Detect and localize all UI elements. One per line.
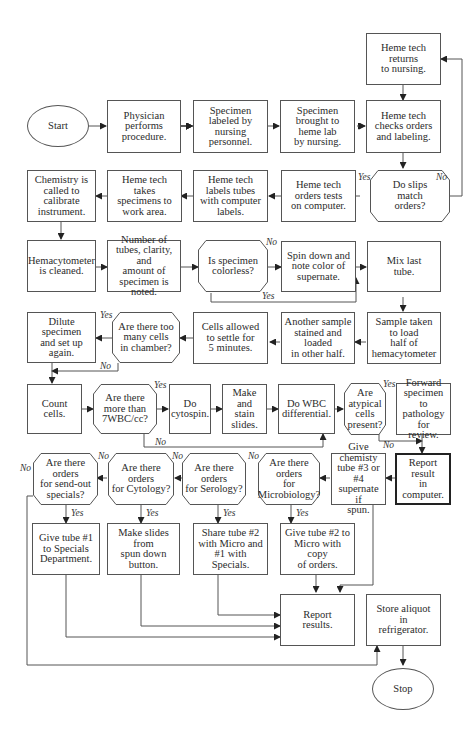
- takes-specimens-node: Heme tech takes specimens to work area.: [107, 170, 182, 222]
- give-chemistry-tube-node: Give chemisty tube #3 or #4 supernate if…: [331, 453, 386, 505]
- label-yes-slips: Yes: [358, 172, 370, 182]
- report-results-node: Report results.: [280, 594, 355, 646]
- stop-node: Stop: [372, 668, 434, 710]
- sample-taken-node: Sample taken to load half of hemacytomet…: [367, 312, 441, 364]
- atypical-cells-decision: Are atypical cells present?: [344, 383, 386, 435]
- start-node: Start: [27, 105, 89, 147]
- microbiology-text: Are there orders for Microbiology?: [258, 458, 320, 500]
- colorless-decision: Is specimen colorless?: [198, 240, 268, 292]
- too-many-text: Are there too many cells in chamber?: [118, 322, 173, 354]
- microbiology-decision: Are there orders for Microbiology?: [258, 453, 320, 505]
- do-cytospin-node: Do cytospin.: [169, 384, 211, 434]
- more-than-7wbc-decision: Are there more than 7WBC/cc?: [93, 384, 157, 434]
- heme-tech-returns-node: Heme tech returns to nursing.: [366, 33, 441, 85]
- label-yes-sendout: Yes: [71, 508, 83, 518]
- cells-settle-node: Cells allowed to settle for 5 minutes.: [193, 312, 268, 364]
- label-no-cyto: No: [98, 451, 109, 461]
- serology-decision: Are there orders for Serology?: [182, 453, 246, 505]
- label-yes-colorless: Yes: [262, 291, 274, 301]
- number-noted-node: Number of tubes, clarity, and amount of …: [107, 240, 181, 292]
- physician-performs-node: Physician performs procedure.: [107, 100, 181, 153]
- label-yes-atypical: Yes: [383, 379, 395, 389]
- send-out-specials-decision: Are there orders for send-out specials?: [33, 453, 98, 505]
- specimen-labeled-node: Specimen labeled by nursing personnel.: [193, 100, 268, 153]
- label-no-sero: No: [172, 451, 183, 461]
- make-stain-slides-node: Make and stain slides.: [222, 384, 267, 434]
- label-no-atypical: No: [383, 440, 394, 450]
- heme-tech-checks-node: Heme tech checks orders and labeling.: [366, 100, 441, 153]
- label-no-sendout: No: [20, 463, 31, 473]
- label-no-7wbc: No: [155, 437, 166, 447]
- label-yes-sero: Yes: [223, 508, 235, 518]
- more-7wbc-text: Are there more than 7WBC/cc?: [102, 393, 148, 425]
- label-yes-too-many: Yes: [100, 310, 112, 320]
- cytology-decision: Are there orders for Cytology?: [108, 453, 174, 505]
- specimen-brought-node: Specimen brought to heme lab by nursing.: [280, 100, 355, 153]
- label-no-slips: No: [436, 172, 447, 182]
- atypical-text: Are atypical cells present?: [348, 388, 383, 430]
- label-yes-cyto: Yes: [146, 508, 158, 518]
- mix-last-tube-node: Mix last tube.: [367, 241, 441, 292]
- slips-match-text: Do slips match orders?: [393, 180, 428, 212]
- label-yes-micro: Yes: [296, 508, 308, 518]
- flowchart: Start Physician performs procedure. Spec…: [0, 0, 475, 741]
- label-no-too-many: No: [100, 361, 111, 371]
- send-out-text: Are there orders for send-out specials?: [35, 458, 96, 500]
- count-cells-node: Count cells.: [27, 384, 82, 434]
- label-yes-7wbc: Yes: [154, 380, 166, 390]
- label-no-colorless: No: [266, 237, 277, 247]
- make-slides-button-node: Make slides from spun down button.: [107, 523, 180, 575]
- store-aliquot-node: Store aliquot in refrigerator.: [366, 594, 441, 646]
- labels-tubes-node: Heme tech labels tubes with computer lab…: [193, 170, 268, 222]
- dilute-specimen-node: Dilute specimen and set up again.: [27, 312, 96, 363]
- give-tube2-micro-node: Give tube #2 to Micro with copy of order…: [280, 523, 355, 575]
- cytology-text: Are there orders for Cytology?: [110, 463, 172, 495]
- serology-text: Are there orders for Serology?: [184, 463, 244, 495]
- colorless-text: Is specimen colorless?: [208, 256, 258, 277]
- give-tube1-specials-node: Give tube #1 to Specials Department.: [32, 523, 100, 575]
- forward-pathology-node: Forward specimen to pathology for review…: [396, 383, 451, 435]
- too-many-cells-decision: Are there too many cells in chamber?: [112, 312, 180, 363]
- orders-tests-node: Heme tech orders tests on computer.: [281, 170, 356, 222]
- share-tube2-node: Share tube #2 with Micro and #1 with Spe…: [193, 523, 268, 575]
- another-sample-node: Another sample stained and loaded in oth…: [281, 312, 355, 364]
- report-result-computer-node: Report result in computer.: [395, 453, 451, 505]
- wbc-differential-node: Do WBC differential.: [278, 384, 335, 434]
- hemacytometer-cleaned-node: Hemacytometer is cleaned.: [27, 240, 96, 292]
- chemistry-called-node: Chemistry is called to calibrate instrum…: [27, 170, 96, 222]
- spin-down-node: Spin down and note color of supernate.: [281, 241, 356, 292]
